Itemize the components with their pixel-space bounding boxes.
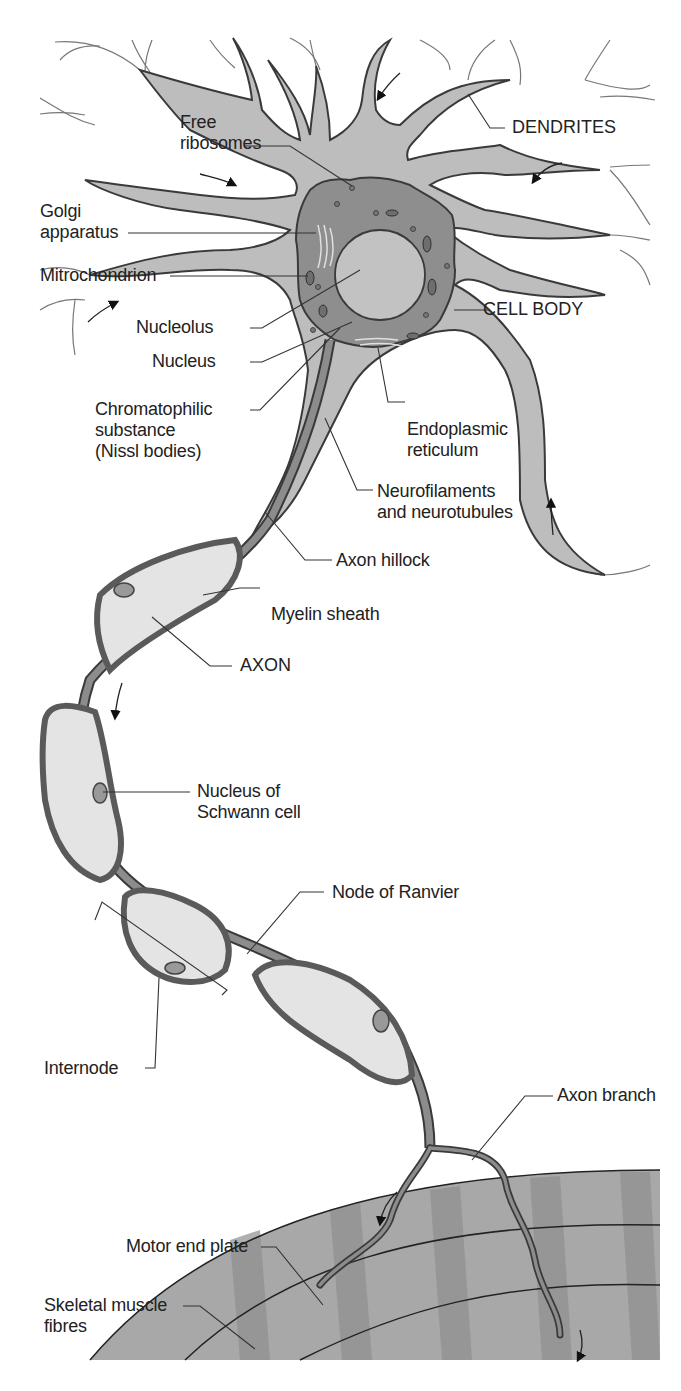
label-skeletal-muscle-fibres: Skeletal muscle fibres bbox=[44, 1295, 167, 1337]
label-endoplasmic-reticulum: Endoplasmic reticulum bbox=[407, 419, 508, 461]
label-dendrites: DENDRITES bbox=[512, 117, 616, 138]
skeletal-muscle bbox=[90, 1170, 660, 1360]
label-neurofilaments: Neurofilaments and neurotubules bbox=[377, 481, 513, 523]
label-axon-branch: Axon branch bbox=[557, 1085, 656, 1106]
label-golgi-apparatus: Golgi apparatus bbox=[40, 201, 118, 243]
myelin-segment-1 bbox=[97, 540, 240, 670]
nucleus-shape bbox=[335, 230, 425, 320]
cell-body bbox=[296, 178, 455, 348]
label-mitochondrion: Mitrochondrion bbox=[40, 265, 156, 286]
label-nucleus-schwann-cell: Nucleus of Schwann cell bbox=[197, 781, 301, 823]
label-internode: Internode bbox=[44, 1058, 118, 1079]
label-nucleus: Nucleus bbox=[152, 351, 216, 372]
label-cell-body: CELL BODY bbox=[483, 299, 583, 320]
label-motor-end-plate: Motor end plate bbox=[126, 1236, 248, 1257]
myelin-segment-2 bbox=[43, 706, 121, 880]
label-free-ribosomes: Free ribosomes bbox=[180, 112, 261, 154]
label-chromatophilic-substance: Chromatophilic substance (Nissl bodies) bbox=[95, 399, 212, 462]
label-node-of-ranvier: Node of Ranvier bbox=[332, 882, 459, 903]
label-myelin-sheath: Myelin sheath bbox=[271, 604, 379, 625]
label-axon: AXON bbox=[240, 655, 291, 676]
label-axon-hillock: Axon hillock bbox=[336, 550, 430, 571]
label-nucleolus: Nucleolus bbox=[136, 317, 213, 338]
